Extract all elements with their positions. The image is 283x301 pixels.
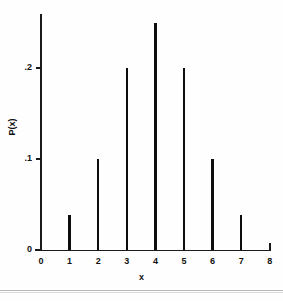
bar-x-4: [154, 23, 157, 251]
y-tick-.1: [36, 158, 41, 160]
bar-x-7: [240, 215, 243, 250]
scan-artifact-line: [0, 290, 283, 291]
plot-area: 012345678 0.1.2 x P(x): [0, 0, 283, 301]
bar-x-6: [211, 159, 214, 250]
y-tick-0: [35, 249, 41, 251]
x-tick-label-2: 2: [88, 256, 108, 266]
x-tick-label-7: 7: [231, 256, 251, 266]
y-tick-label-p2: .2: [10, 62, 32, 72]
y-tick-label-p1: .1: [10, 153, 32, 163]
probability-chart-figure: 012345678 0.1.2 x P(x): [0, 0, 283, 301]
y-tick-.2: [36, 67, 41, 69]
x-tick-label-8: 8: [260, 256, 280, 266]
bar-x-5: [183, 68, 186, 250]
x-tick-label-3: 3: [117, 256, 137, 266]
y-axis-title: P(x): [7, 107, 17, 147]
bar-x-3: [126, 68, 129, 250]
x-tick-label-0: 0: [31, 256, 51, 266]
x-tick-label-4: 4: [145, 256, 165, 266]
y-axis-line: [40, 14, 42, 251]
x-tick-label-1: 1: [60, 256, 80, 266]
scan-artifact-line-secondary: [0, 292, 283, 293]
x-tick-label-5: 5: [174, 256, 194, 266]
y-tick-label-0: 0: [10, 244, 32, 254]
bar-x-1: [68, 215, 71, 250]
x-tick-8: [269, 243, 271, 250]
bar-x-2: [97, 159, 100, 250]
x-tick-label-6: 6: [203, 256, 223, 266]
x-axis-title: x: [0, 272, 283, 282]
